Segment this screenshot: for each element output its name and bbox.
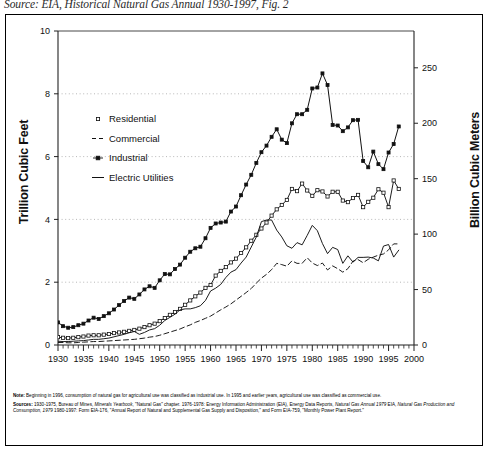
sources-ital-2: Natural Gas Annual 1979: [335, 402, 386, 407]
data-point-marker: [72, 326, 75, 329]
x-tick-label: 1995: [379, 354, 399, 364]
legend-label: Industrial: [109, 152, 148, 163]
data-point-marker: [351, 119, 354, 122]
data-point-marker: [133, 297, 136, 300]
data-point-marker: [77, 324, 80, 327]
data-point-marker: [397, 187, 400, 190]
data-point-marker: [392, 179, 395, 182]
footnotes-block: Note: Beginning in 1996, consumption of …: [13, 393, 475, 415]
data-point-marker: [265, 144, 268, 147]
data-point-marker: [163, 273, 166, 276]
data-point-marker: [382, 191, 385, 194]
data-point-marker: [296, 113, 299, 116]
data-point-marker: [77, 336, 80, 339]
data-point-marker: [173, 268, 176, 271]
x-tick-label: 1940: [99, 354, 119, 364]
data-point-marker: [209, 283, 212, 286]
data-point-marker: [209, 226, 212, 229]
data-point-marker: [199, 291, 202, 294]
data-point-marker: [118, 304, 121, 307]
data-point-marker: [184, 303, 187, 306]
data-point-marker: [204, 286, 207, 289]
y-tick-label-right: 0: [422, 340, 427, 350]
data-point-marker: [143, 288, 146, 291]
data-point-marker: [82, 335, 85, 338]
y-axis-title-left: Trillion Cubic Feet: [17, 92, 31, 252]
data-point-marker: [184, 256, 187, 259]
data-point-marker: [62, 325, 65, 328]
x-tick-label: 1935: [73, 354, 93, 364]
y-tick-label-left: 0: [45, 340, 50, 350]
data-point-marker: [245, 183, 248, 186]
data-point-marker: [301, 182, 304, 185]
footnote-note-text: Beginning in 1996, consumption of natura…: [26, 393, 381, 398]
data-point-marker: [341, 130, 344, 133]
data-point-marker: [204, 237, 207, 240]
legend-label: Commercial: [109, 133, 160, 144]
data-point-marker: [311, 194, 314, 197]
x-tick-label: 1950: [150, 354, 170, 364]
data-point-marker: [377, 188, 380, 191]
y-axis-title-right: Billion Cubic Meters: [468, 85, 482, 255]
data-point-marker: [260, 227, 263, 230]
data-point-marker: [219, 221, 222, 224]
data-point-marker: [138, 327, 141, 330]
x-tick-label: 1960: [201, 354, 221, 364]
x-tick-label: 1970: [251, 354, 271, 364]
data-point-marker: [72, 336, 75, 339]
y-tick-label-left: 4: [45, 215, 50, 225]
legend-swatch-open-square-icon: [96, 117, 99, 120]
data-point-marker: [163, 316, 166, 319]
data-point-marker: [148, 324, 151, 327]
data-point-marker: [194, 247, 197, 250]
data-point-marker: [97, 334, 100, 337]
data-point-marker: [214, 274, 217, 277]
x-tick-label: 1965: [226, 354, 246, 364]
legend-label: Electric Utilities: [109, 172, 174, 183]
data-point-marker: [219, 269, 222, 272]
data-point-marker: [138, 293, 141, 296]
data-point-marker: [189, 250, 192, 253]
sources-text-1: 1930-1975, Bureau of Mines,: [34, 402, 95, 407]
data-point-marker: [87, 334, 90, 337]
data-point-marker: [123, 300, 126, 303]
data-point-marker: [397, 125, 400, 128]
data-point-marker: [61, 336, 64, 339]
legend-label: Residential: [109, 113, 156, 124]
data-point-marker: [326, 195, 329, 198]
data-point-marker: [214, 222, 217, 225]
data-point-marker: [387, 151, 390, 154]
sources-text-4: 1980-1997: Form EIA-176, "Annual Report …: [53, 408, 364, 413]
data-point-marker: [301, 113, 304, 116]
data-point-marker: [235, 205, 238, 208]
data-point-marker: [285, 198, 288, 201]
y-tick-label-right: 150: [422, 174, 437, 184]
data-point-marker: [234, 257, 237, 260]
x-tick-label: 1955: [175, 354, 195, 364]
data-point-marker: [367, 166, 370, 169]
data-point-marker: [280, 203, 283, 206]
data-point-marker: [153, 322, 156, 325]
data-point-marker: [280, 138, 283, 141]
data-point-marker: [82, 322, 85, 325]
data-point-marker: [224, 266, 227, 269]
data-point-marker: [382, 168, 385, 171]
data-point-marker: [260, 151, 263, 154]
footnote-note-label: Note:: [13, 393, 25, 398]
plot-area-wrapper: 0246810050100150200250193019351940194519…: [6, 15, 484, 447]
data-point-marker: [346, 201, 349, 204]
data-point-marker: [56, 336, 59, 339]
data-point-marker: [107, 312, 110, 315]
data-point-marker: [387, 206, 390, 209]
data-point-marker: [275, 128, 278, 131]
data-point-marker: [316, 86, 319, 89]
data-point-marker: [372, 150, 375, 153]
data-point-marker: [290, 122, 293, 125]
sources-ital-1: Minerals Yearbook: [94, 402, 132, 407]
data-point-marker: [168, 313, 171, 316]
data-point-marker: [102, 315, 105, 318]
data-point-marker: [336, 190, 339, 193]
data-point-marker: [153, 286, 156, 289]
legend-item-commercial: Commercial: [92, 133, 160, 144]
data-point-marker: [311, 87, 314, 90]
